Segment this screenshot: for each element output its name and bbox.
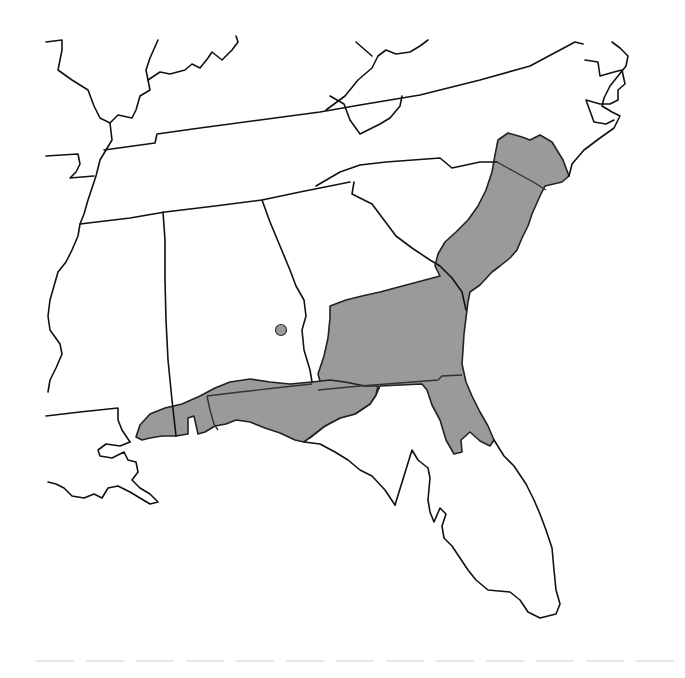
mississippi-river [46,40,112,392]
border-al-ga [262,200,312,382]
border-la-ms [46,408,130,442]
range-gulf-coast [136,379,378,442]
border-nc-sc [316,158,497,186]
nc-sounds [585,60,625,124]
border-ky-va-north [356,42,372,56]
isolated-locality-marker [276,325,287,336]
border-tn-south [80,182,350,224]
border-ms-al [163,212,176,436]
louisiana-coast [48,442,158,504]
florida-west-coast [395,440,560,618]
border-tn-nc [330,96,402,134]
border-ky-va [326,40,428,110]
range-map [0,0,685,678]
ohio-river [110,36,238,123]
gulf-coast-panhandle [304,442,395,505]
border-ar-mo [46,154,94,178]
